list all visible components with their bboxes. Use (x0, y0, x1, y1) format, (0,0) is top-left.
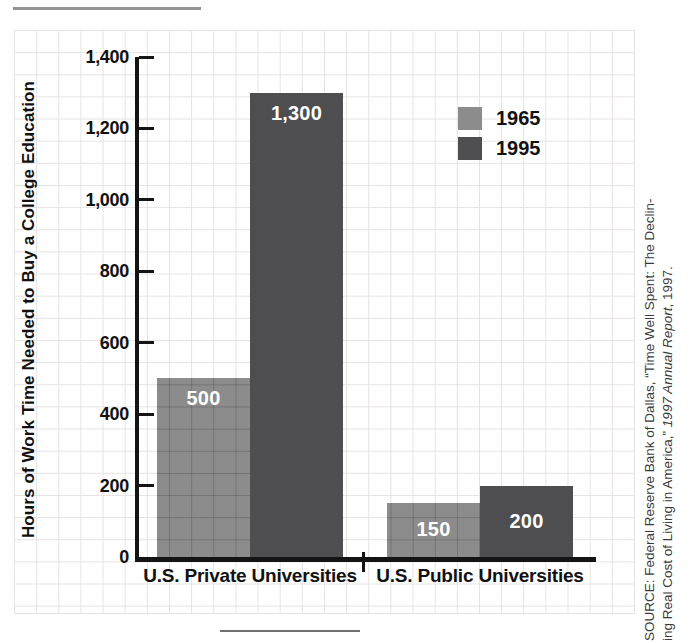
bar-1965-private: 500 (157, 378, 250, 557)
y-axis-tick-label: 1,400 (56, 46, 129, 68)
y-axis-tick-label: 0 (56, 546, 129, 568)
y-axis-tick-label: 200 (56, 475, 129, 497)
y-axis-tick (139, 270, 154, 273)
top-rule (13, 7, 201, 10)
y-axis-tick (139, 127, 154, 130)
y-axis-tick-label: 1,000 (56, 189, 129, 211)
legend-swatch-1965 (458, 107, 482, 130)
source-citation: SOURCE: Federal Reserve Bank of Dallas, … (641, 81, 679, 641)
bar-value-label: 150 (387, 518, 480, 541)
x-axis-label-private: U.S. Private Universities (120, 565, 380, 587)
bar-1965-public: 150 (387, 503, 480, 557)
bar-1995-public: 200 (480, 486, 573, 557)
bar-value-label: 1,300 (250, 102, 343, 125)
x-axis-label-public: U.S. Public Universities (350, 565, 610, 587)
bar-value-label: 200 (480, 510, 573, 533)
y-axis-tick (139, 56, 154, 59)
legend-label: 1995 (496, 137, 541, 160)
y-axis-title: Hours of Work Time Needed to Buy a Colle… (19, 57, 42, 562)
legend-swatch-1995 (458, 137, 482, 160)
source-line-1: SOURCE: Federal Reserve Bank of Dallas, … (641, 81, 659, 641)
y-axis-tick-label: 400 (56, 403, 129, 425)
source-line-2: ing Real Cost of Living in America,” 199… (659, 81, 677, 641)
y-axis-tick (139, 198, 154, 201)
y-axis-tick (139, 413, 154, 416)
legend-item-1995: 1995 (458, 137, 541, 160)
y-axis-tick (139, 484, 154, 487)
legend-label: 1965 (496, 107, 541, 130)
legend-item-1965: 1965 (458, 107, 541, 130)
bar-value-label: 500 (157, 387, 250, 410)
legend: 19651995 (458, 107, 541, 167)
y-axis-tick (139, 341, 154, 344)
x-axis-line (136, 557, 596, 562)
bottom-rule (220, 630, 360, 632)
bar-1995-private: 1,300 (250, 93, 343, 557)
y-axis-tick-label: 1,200 (56, 117, 129, 139)
y-axis-tick-label: 800 (56, 260, 129, 282)
y-axis-tick-label: 600 (56, 332, 129, 354)
